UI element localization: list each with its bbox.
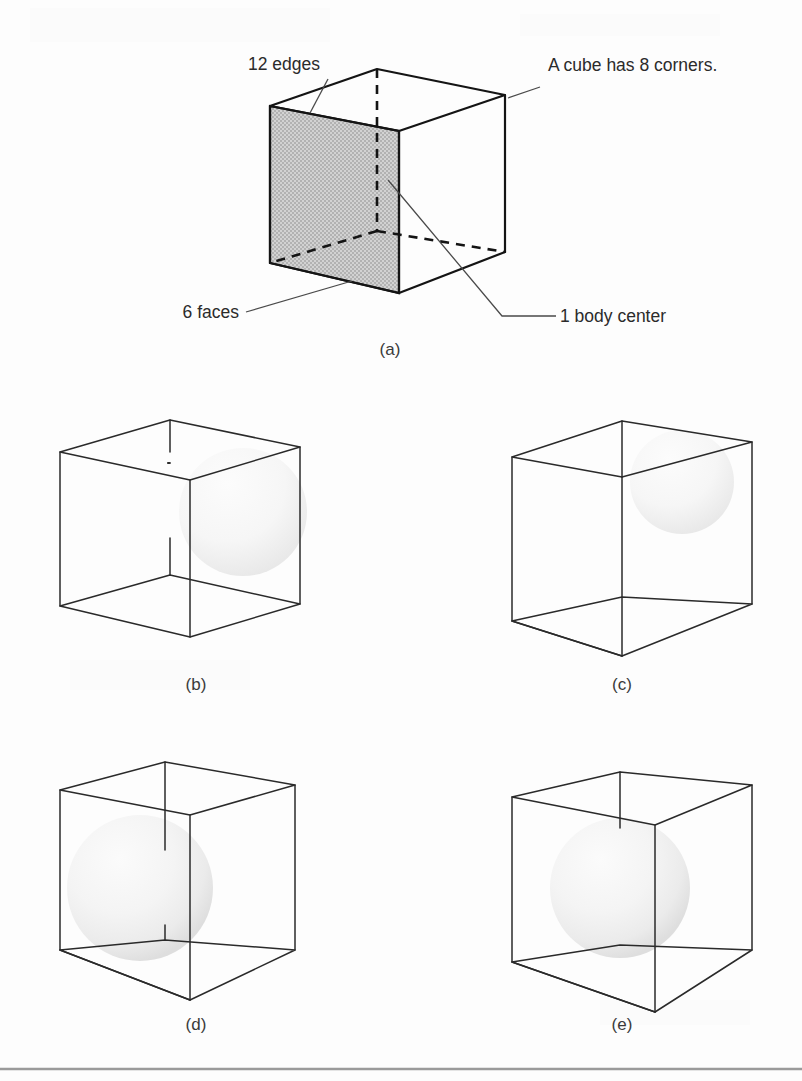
figure-plate: 12 edges A cube has 8 corners. 6 faces 1…	[0, 0, 802, 1081]
annotation-1-body-center: 1 body center	[560, 306, 666, 326]
annotation-8-corners: A cube has 8 corners.	[548, 55, 717, 75]
annotation-12-edges: 12 edges	[248, 54, 320, 74]
caption-b: (b)	[186, 675, 207, 694]
shaded-face	[270, 106, 399, 293]
caption-c: (c)	[612, 675, 632, 694]
annotation-6-faces: 6 faces	[183, 302, 240, 322]
sphere-e	[550, 818, 690, 958]
sphere-b	[179, 448, 307, 576]
caption-d: (d)	[186, 1015, 207, 1034]
sphere-d	[67, 815, 213, 961]
caption-a: (a)	[380, 340, 401, 359]
caption-e: (e)	[612, 1015, 633, 1034]
sphere-c	[630, 430, 734, 534]
figure-canvas: 12 edges A cube has 8 corners. 6 faces 1…	[0, 0, 802, 1081]
